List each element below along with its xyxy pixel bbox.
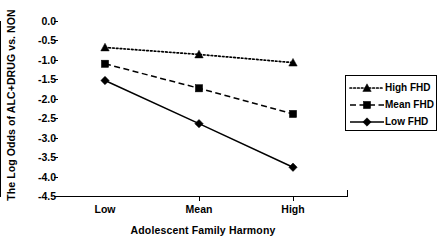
- legend-label: Mean FHD: [385, 100, 434, 110]
- data-point-marker: [101, 43, 109, 51]
- y-axis-tick-label: 0.0: [24, 16, 56, 27]
- legend-label: High FHD: [385, 83, 431, 93]
- y-axis-tick-label: -0.5: [24, 35, 56, 46]
- data-point-marker: [195, 50, 203, 58]
- legend-key-square-icon: [349, 98, 385, 112]
- chart-legend: High FHDMean FHDLow FHD: [345, 75, 437, 131]
- y-axis-tick-label: -3.5: [24, 152, 56, 163]
- y-axis-tick-label: -4.5: [24, 191, 56, 202]
- series-low-fhd: [101, 76, 297, 171]
- y-axis-tick-mark: [54, 177, 58, 178]
- legend-key-triangle-icon: [349, 81, 385, 95]
- series-line: [105, 47, 293, 62]
- y-axis-tick-mark: [54, 138, 58, 139]
- y-axis-tick-mark: [54, 99, 58, 100]
- data-point-marker: [289, 163, 297, 171]
- y-axis-title-text: The Log Odds of ALC+DRUG vs. NON: [5, 9, 17, 201]
- data-point-marker: [195, 119, 203, 127]
- data-point-marker: [289, 58, 297, 66]
- y-axis-tick-label: -2.5: [24, 113, 56, 124]
- x-axis-line: [58, 196, 348, 197]
- legend-item[interactable]: High FHD: [346, 79, 436, 97]
- y-axis-tick-mark: [54, 157, 58, 158]
- legend-label: Low FHD: [385, 117, 428, 127]
- data-point-marker: [289, 110, 296, 117]
- legend-item[interactable]: Mean FHD: [346, 96, 436, 114]
- x-axis-right-cap: [347, 190, 348, 197]
- y-axis-tick-mark: [54, 40, 58, 41]
- series-line: [105, 81, 293, 168]
- x-axis-tick-mark: [293, 196, 294, 201]
- y-axis-tick-label: -1.0: [24, 55, 56, 66]
- chart-figure: The Log Odds of ALC+DRUG vs. NON 0.0-0.5…: [0, 0, 447, 245]
- legend-key-diamond-icon: [349, 115, 385, 129]
- series-mean-fhd: [101, 60, 296, 117]
- y-axis-tick-labels: 0.0-0.5-1.0-1.5-2.0-2.5-3.0-3.5-4.0-4.5: [22, 0, 56, 245]
- x-axis-tick-label: Mean: [164, 203, 234, 215]
- series-high-fhd: [101, 43, 297, 66]
- y-axis-tick-label: -3.0: [24, 133, 56, 144]
- y-axis-title: The Log Odds of ALC+DRUG vs. NON: [0, 0, 22, 210]
- data-point-marker: [101, 76, 109, 84]
- series-line: [105, 64, 293, 114]
- y-axis-tick-mark: [54, 21, 58, 22]
- data-point-marker: [101, 60, 108, 67]
- y-axis-tick-label: -4.0: [24, 172, 56, 183]
- x-axis-tick-label: Low: [70, 203, 140, 215]
- x-axis-tick-label: High: [258, 203, 328, 215]
- y-axis-tick-mark: [54, 196, 58, 197]
- y-axis-line: [0, 21, 1, 197]
- x-axis-title: Adolescent Family Harmony: [58, 224, 348, 236]
- y-axis-tick-label: -2.0: [24, 94, 56, 105]
- x-axis-tick-mark: [199, 196, 200, 201]
- y-axis-tick-label: -1.5: [24, 74, 56, 85]
- data-point-marker: [195, 85, 202, 92]
- legend-item[interactable]: Low FHD: [346, 113, 436, 131]
- y-axis-tick-mark: [54, 118, 58, 119]
- y-axis-tick-mark: [54, 60, 58, 61]
- y-axis-tick-mark: [54, 79, 58, 80]
